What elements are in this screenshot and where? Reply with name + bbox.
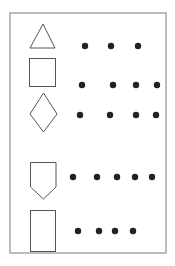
square-shape — [30, 59, 56, 87]
dots-group — [82, 43, 141, 49]
row-pentagon — [31, 163, 156, 200]
dot — [94, 174, 100, 180]
row-triangle — [30, 24, 141, 49]
dot — [107, 112, 113, 118]
diamond-shape — [30, 93, 57, 132]
diagram-border — [10, 13, 166, 253]
dot — [135, 43, 141, 49]
dot — [112, 228, 118, 234]
dot — [130, 228, 136, 234]
dot — [75, 228, 81, 234]
dot — [133, 82, 139, 88]
dot — [132, 174, 138, 180]
dot — [110, 82, 116, 88]
dot — [154, 82, 160, 88]
dot — [82, 43, 88, 49]
dot — [79, 82, 85, 88]
dot — [114, 174, 120, 180]
dot — [149, 174, 155, 180]
dot — [70, 174, 76, 180]
triangle-shape — [30, 24, 55, 48]
row-diamond — [30, 93, 159, 132]
row-rectangle — [31, 211, 137, 252]
rectangle-shape — [31, 211, 56, 252]
dots-group — [70, 174, 155, 180]
dot — [133, 112, 139, 118]
pentagon-shape — [31, 163, 57, 200]
dots-group — [75, 228, 136, 234]
row-square — [30, 59, 161, 89]
dot — [108, 43, 114, 49]
dot — [77, 112, 83, 118]
dots-group — [79, 82, 160, 88]
dot — [96, 228, 102, 234]
dots-group — [77, 112, 159, 118]
shapes-dots-diagram — [0, 0, 175, 266]
dot — [153, 112, 159, 118]
